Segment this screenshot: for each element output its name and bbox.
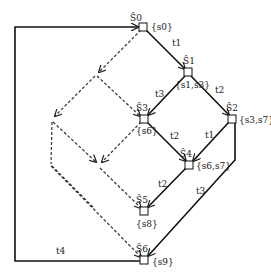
node-name-s3: Ŝ3 — [136, 102, 148, 113]
edge-label-t3-left: t3 — [155, 89, 165, 99]
edge-label-t2-right: t2 — [215, 85, 224, 95]
node-s4 — [185, 161, 193, 169]
node-set-s2: {s3,s7} — [239, 115, 271, 125]
node-name-s1: Ŝ1 — [183, 55, 195, 66]
node-name-s5: Ŝ5 — [136, 194, 148, 205]
edge-label-t1-top: t1 — [172, 38, 181, 48]
node-name-s0: Ŝ0 — [130, 12, 142, 23]
node-s5 — [140, 207, 148, 215]
edge-label-t2-low: t2 — [158, 179, 167, 189]
edge-label-t4: t4 — [56, 246, 66, 256]
edge-t1-s0-s1 — [146, 30, 185, 69]
node-set-s3: {s6} — [136, 126, 158, 136]
node-set-s1: {s1,s3} — [175, 80, 210, 90]
node-set-s0: {s0} — [151, 22, 173, 32]
dashed-lattice — [51, 30, 141, 257]
edge-t3-s2-s6 — [148, 122, 235, 256]
edge-label-t1-mid: t1 — [205, 130, 214, 140]
node-name-s2: Ŝ2 — [226, 102, 238, 113]
edge-t1-s2-s4 — [193, 122, 229, 161]
node-s3 — [140, 115, 148, 123]
node-set-s5: {s8} — [136, 219, 158, 229]
node-s1 — [184, 68, 192, 76]
node-name-s6: Ŝ6 — [136, 243, 148, 254]
node-s6 — [140, 256, 148, 264]
node-s0 — [139, 23, 147, 31]
node-name-s4: Ŝ4 — [180, 148, 192, 159]
node-set-s6: {s9} — [152, 257, 174, 267]
solid-edges — [15, 27, 235, 261]
state-diagram: Ŝ0 Ŝ1 Ŝ3 Ŝ2 Ŝ4 Ŝ5 Ŝ6 {s0} {s1,s3} {s6} {… — [0, 0, 271, 276]
edge-label-t3-low: t3 — [196, 186, 206, 196]
node-set-s4: {s6,s7} — [196, 161, 231, 171]
edge-label-t2-mid: t2 — [170, 131, 179, 141]
node-s2 — [228, 115, 236, 123]
